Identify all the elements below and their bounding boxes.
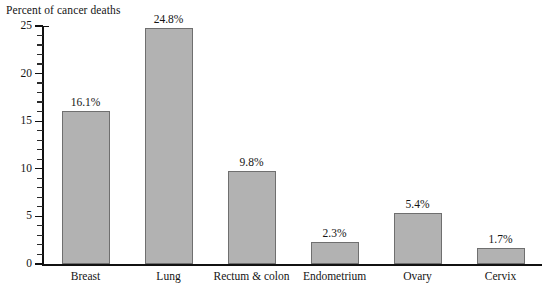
plot-area: 0510152025 16.1%Breast24.8%Lung9.8%Rectu… xyxy=(0,0,546,289)
y-tick-minor xyxy=(37,149,43,150)
y-tick-label: 15 xyxy=(6,115,32,127)
y-tick-major xyxy=(35,121,43,122)
y-tick-label: 10 xyxy=(6,163,32,175)
y-tick-minor xyxy=(37,101,43,102)
y-tick-minor xyxy=(37,235,43,236)
y-tick-minor xyxy=(37,44,43,45)
bar-value-label: 1.7% xyxy=(461,233,541,245)
y-tick-minor xyxy=(37,111,43,112)
y-tick-minor xyxy=(37,206,43,207)
y-tick-minor xyxy=(37,178,43,179)
bar-value-label: 16.1% xyxy=(46,96,126,108)
y-tick-major xyxy=(35,216,43,217)
bar-value-label: 24.8% xyxy=(129,13,209,25)
y-tick-label: 0 xyxy=(6,258,32,270)
y-tick-major xyxy=(35,73,43,74)
bar xyxy=(145,28,193,264)
y-tick-minor xyxy=(37,54,43,55)
y-tick-minor xyxy=(37,82,43,83)
y-tick-minor xyxy=(37,130,43,131)
y-tick-minor xyxy=(37,244,43,245)
bar-value-label: 9.8% xyxy=(212,156,292,168)
y-axis-line xyxy=(42,26,44,265)
bar xyxy=(477,248,525,264)
y-tick-minor xyxy=(37,197,43,198)
y-tick-label: 5 xyxy=(6,210,32,222)
bar-value-label: 2.3% xyxy=(295,227,375,239)
y-tick-label: 20 xyxy=(6,68,32,80)
y-axis-top-cap xyxy=(42,26,49,27)
x-axis-category-label: Cervix xyxy=(441,270,546,282)
y-tick-minor xyxy=(37,92,43,93)
y-tick-major xyxy=(35,168,43,169)
y-tick-minor xyxy=(37,35,43,36)
bar xyxy=(311,242,359,264)
bar xyxy=(62,111,110,264)
y-tick-minor xyxy=(37,187,43,188)
y-tick-major xyxy=(35,263,43,264)
y-tick-major xyxy=(35,25,43,26)
y-tick-minor xyxy=(37,254,43,255)
y-tick-minor xyxy=(37,140,43,141)
bar-value-label: 5.4% xyxy=(378,198,458,210)
y-tick-minor xyxy=(37,225,43,226)
y-tick-minor xyxy=(37,63,43,64)
bar xyxy=(394,213,442,264)
x-axis-line xyxy=(42,264,542,266)
bar-chart: Percent of cancer deaths 0510152025 16.1… xyxy=(0,0,546,289)
bar xyxy=(228,171,276,264)
y-tick-minor xyxy=(37,159,43,160)
y-tick-label: 25 xyxy=(6,20,32,32)
